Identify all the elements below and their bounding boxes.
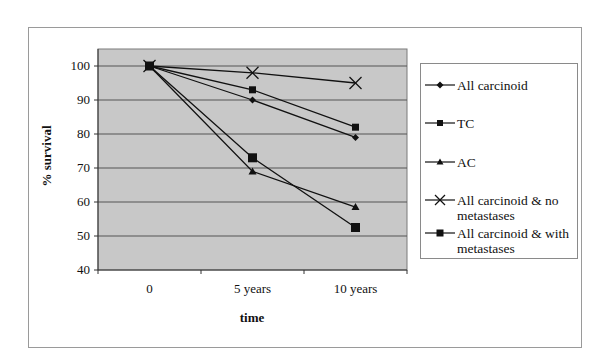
legend-label: TC <box>457 115 474 131</box>
x-axis-label: time <box>212 310 292 326</box>
y-tick-label: 40 <box>60 263 90 277</box>
legend-item-no-metastases: All carcinoid & no metastases <box>421 192 579 223</box>
diamond-marker-icon <box>423 77 457 93</box>
x-tick-label: 5 years <box>213 282 293 296</box>
legend-item-all-carcinoid: All carcinoid <box>421 77 579 93</box>
y-tick-label: 90 <box>60 93 90 107</box>
square-marker-icon <box>423 115 457 131</box>
legend-label: AC <box>457 154 476 170</box>
y-tick-label: 50 <box>60 229 90 243</box>
y-tick-label: 100 <box>60 59 90 73</box>
legend-item-ac: AC <box>421 154 579 170</box>
square-marker-icon <box>423 225 457 241</box>
y-tick-label: 80 <box>60 127 90 141</box>
triangle-marker-icon <box>423 154 457 170</box>
y-tick-label: 60 <box>60 195 90 209</box>
x-tick-label: 10 years <box>316 282 396 296</box>
y-axis-label: % survival <box>39 101 55 211</box>
legend-item-with-metastases: All carcinoid & with metastases <box>421 225 579 256</box>
legend-label: All carcinoid & no metastases <box>457 192 559 223</box>
legend: All carcinoid TC AC All carcinoid & no m… <box>420 63 578 259</box>
x-tick-label: 0 <box>110 282 190 296</box>
legend-item-tc: TC <box>421 115 579 131</box>
legend-label: All carcinoid & with metastases <box>457 225 569 256</box>
y-tick-label: 70 <box>60 161 90 175</box>
x-marker-icon <box>423 192 457 208</box>
legend-label: All carcinoid <box>457 77 528 93</box>
